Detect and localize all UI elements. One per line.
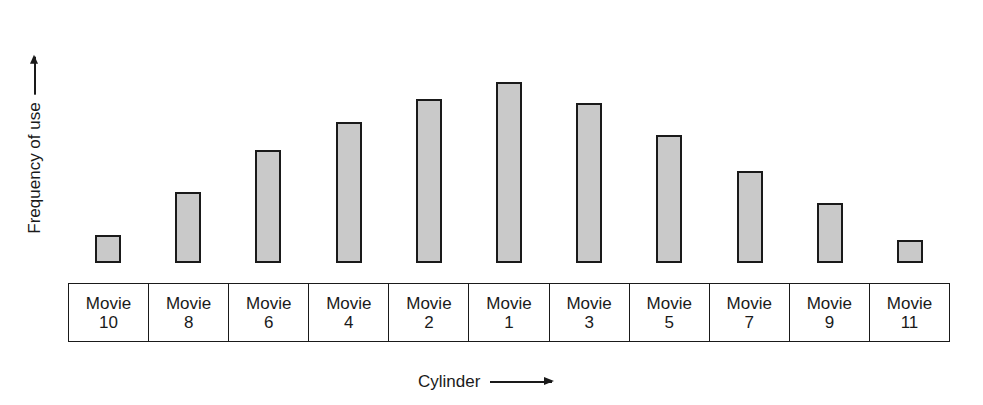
frequency-bar (496, 82, 522, 263)
frequency-bar (737, 171, 763, 263)
bar-slot (309, 60, 389, 263)
bar-slot (469, 60, 549, 263)
bar-plot-area (68, 60, 950, 263)
y-axis-label-wrap: Frequency of use (22, 20, 48, 270)
cylinder-label-row: Movie10Movie8Movie6Movie4Movie2Movie1Mov… (68, 283, 950, 342)
bar-slot (228, 60, 308, 263)
movie-cell-label: Movie (807, 294, 852, 313)
movie-cell-number: 9 (825, 313, 834, 332)
movie-cell: Movie11 (870, 284, 949, 341)
frequency-bar (255, 150, 281, 263)
movie-cell: Movie3 (550, 284, 630, 341)
frequency-bar (656, 135, 682, 263)
movie-cell-label: Movie (86, 294, 131, 313)
frequency-bar (95, 235, 121, 263)
movie-cell: Movie5 (630, 284, 710, 341)
movie-cell-label: Movie (566, 294, 611, 313)
movie-cell-number: 5 (664, 313, 673, 332)
movie-cell: Movie4 (309, 284, 389, 341)
movie-cell-number: 7 (745, 313, 754, 332)
movie-cell-label: Movie (406, 294, 451, 313)
bar-slot (709, 60, 789, 263)
movie-cell-number: 3 (584, 313, 593, 332)
movie-cell: Movie8 (149, 284, 229, 341)
movie-cell: Movie2 (389, 284, 469, 341)
x-axis-label: Cylinder (418, 372, 552, 392)
frequency-bar (897, 240, 923, 263)
movie-cell-number: 2 (424, 313, 433, 332)
movie-cell: Movie9 (790, 284, 870, 341)
frequency-bar (336, 122, 362, 263)
y-axis-label: Frequency of use (25, 56, 45, 233)
bar-slot (148, 60, 228, 263)
movie-cell: Movie1 (469, 284, 549, 341)
movie-cell-label: Movie (887, 294, 932, 313)
movie-cell-label: Movie (166, 294, 211, 313)
frequency-bar (576, 103, 602, 263)
frequency-bar (416, 99, 442, 263)
movie-cell-label: Movie (326, 294, 371, 313)
y-axis-arrow-icon (34, 56, 36, 94)
movie-cell-number: 6 (264, 313, 273, 332)
frequency-bar (175, 192, 201, 263)
bar-slot (870, 60, 950, 263)
movie-cell-label: Movie (727, 294, 772, 313)
movie-cell-number: 8 (184, 313, 193, 332)
x-axis-arrow-icon (490, 381, 552, 383)
movie-cell-number: 11 (901, 313, 919, 332)
bar-slot (790, 60, 870, 263)
frequency-bar (817, 203, 843, 263)
bar-slot (389, 60, 469, 263)
movie-cell-number: 1 (504, 313, 513, 332)
movie-cell-label: Movie (486, 294, 531, 313)
bar-slot (68, 60, 148, 263)
movie-cell-number: 10 (99, 313, 118, 332)
movie-cell-number: 4 (344, 313, 353, 332)
movie-cell-label: Movie (246, 294, 291, 313)
movie-cell: Movie7 (710, 284, 790, 341)
bar-slot (549, 60, 629, 263)
bar-slot (629, 60, 709, 263)
movie-cell: Movie6 (229, 284, 309, 341)
x-axis-label-text: Cylinder (418, 372, 480, 392)
movie-cell: Movie10 (69, 284, 149, 341)
y-axis-label-text: Frequency of use (25, 102, 45, 233)
movie-cell-label: Movie (647, 294, 692, 313)
